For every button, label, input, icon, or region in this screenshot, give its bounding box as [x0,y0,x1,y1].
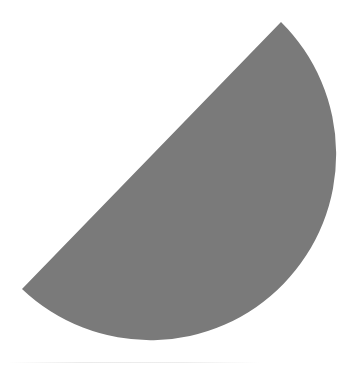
scan-artifact [8,362,260,363]
half-disc-shape [22,22,336,340]
semicircle-figure [0,0,360,369]
diagram-canvas [0,0,360,369]
